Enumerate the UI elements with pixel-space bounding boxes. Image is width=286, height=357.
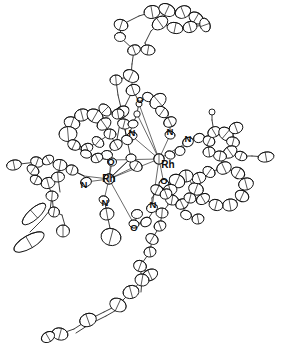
atom-label-n-6: N — [150, 199, 157, 210]
atom-label-n-4: N — [81, 179, 88, 190]
atom-label-n-1: N — [129, 127, 136, 138]
atom-label-o-4: O — [130, 222, 137, 233]
ortep-figure: Rh Rh O N N N O O N N N O — [0, 0, 286, 357]
ortep-canvas: Rh Rh O N N N O O N N N O — [0, 0, 286, 357]
atom-label-rh-1: Rh — [161, 159, 174, 170]
atom-label-o-2: O — [107, 156, 114, 167]
atom-label-n-3: N — [185, 133, 192, 144]
atom-label-n-2: N — [167, 126, 174, 137]
atom-label-n-5: N — [102, 197, 109, 208]
atom-label-o-3: O — [160, 175, 167, 186]
atom-label-o-1: O — [136, 94, 143, 105]
atom-label-rh-2: Rh — [102, 173, 115, 184]
